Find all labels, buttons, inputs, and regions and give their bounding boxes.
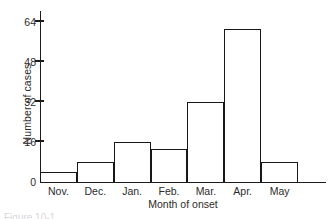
plot-area [40,11,330,183]
x-tick-label: Nov. [40,185,77,197]
y-tick-label: 0 [2,177,36,187]
x-tick-label: Dec. [77,185,114,197]
bar-series [40,12,330,182]
x-tick-label: Jan. [114,185,151,197]
bar [261,162,298,182]
x-axis-tick-labels: Nov.Dec.Jan.Feb.Mar.Apr.May [40,185,330,199]
figure-caption-partial: Figure 10-1 [4,212,55,219]
bar [40,172,77,182]
x-tick-label: Feb. [151,185,188,197]
bar [224,29,261,182]
y-tick-label: 32 [2,97,36,107]
y-tick-label: 48 [2,57,36,67]
histogram-figure: Number of cases 016324864 Nov.Dec.Jan.Fe… [0,0,334,219]
bar [77,162,114,182]
y-axis-tick-labels: 016324864 [0,0,36,219]
x-axis-line [40,182,326,183]
x-tick-label: Apr. [224,185,261,197]
x-tick-label: Mar. [187,185,224,197]
y-tick-label: 16 [2,137,36,147]
x-tick-label: May [261,185,298,197]
bar [151,149,188,182]
y-tick-label: 64 [2,17,36,27]
x-axis-title: Month of onset [40,198,326,210]
bar [187,102,224,182]
bar [114,142,151,182]
